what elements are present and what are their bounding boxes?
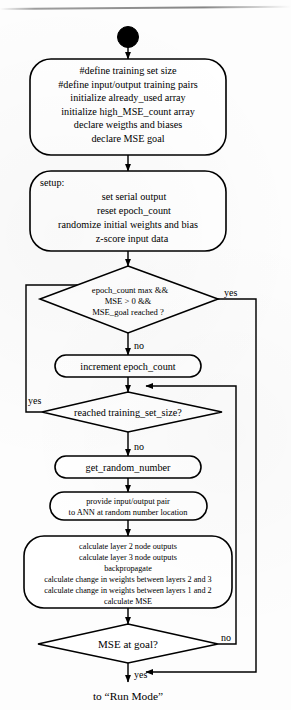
provide-line-1: provide input/output pair [86, 497, 170, 506]
epoch-line-2: MSE > 0 && [105, 296, 152, 306]
declarations-line-3: initialize already_used array [70, 92, 186, 103]
declarations-line-2: #define input/output training pairs [58, 79, 198, 90]
node-get-random-number-label: get_random_number [86, 462, 171, 473]
epoch-line-3: MSE_goal reached ? [92, 307, 164, 317]
setup-line-2: reset epoch_count [97, 205, 171, 216]
node-mse-goal-decision-label: MSE at goal? [98, 638, 158, 650]
declarations-line-1: #define training set size [79, 65, 177, 76]
node-run-mode-label: to “Run Mode” [93, 690, 163, 702]
flowchart-svg: #define training set size #define input/… [0, 0, 291, 710]
calculate-line-4: calculate change in weights between laye… [44, 575, 211, 584]
declarations-line-4: initialize high_MSE_count array [61, 106, 195, 117]
edge-label-mse-no: no [221, 632, 231, 643]
setup-line-4: z-score input data [96, 233, 169, 244]
edge-label-epoch-yes: yes [224, 287, 237, 298]
diagram-canvas: #define training set size #define input/… [0, 0, 291, 710]
node-start [118, 27, 139, 48]
calculate-line-2: calculate layer 3 node outputs [79, 553, 177, 562]
calculate-line-3: backpropagate [104, 564, 152, 573]
setup-line-1: set serial output [102, 191, 167, 202]
setup-heading: setup: [40, 177, 64, 188]
edge-label-training-no: no [134, 441, 144, 452]
setup-line-3: randomize initial weights and bias [58, 219, 198, 230]
edge-label-training-yes: yes [28, 395, 41, 406]
calculate-line-1: calculate layer 2 node outputs [79, 542, 177, 551]
node-increment-epoch-label: increment epoch_count [80, 361, 175, 372]
calculate-line-6: calculate MSE [104, 597, 152, 606]
edge-label-epoch-no: no [134, 340, 144, 351]
epoch-line-1: epoch_count max && [92, 285, 169, 295]
edge-label-mse-yes: yes [134, 669, 147, 680]
provide-line-2: to ANN at random number location [69, 508, 189, 517]
calculate-line-5: calculate change in weights between laye… [44, 586, 211, 595]
declarations-line-5: declare weigths and biases [74, 119, 182, 130]
declarations-line-6: declare MSE goal [92, 133, 165, 144]
node-training-set-decision-label: reached training_set_size? [74, 407, 182, 418]
